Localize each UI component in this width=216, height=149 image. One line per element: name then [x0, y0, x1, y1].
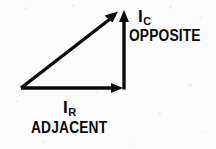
vector-diagram-figure: IC OPPOSITE IR ADJACENT [0, 0, 216, 149]
capacitive-current-label: IC [138, 8, 151, 25]
opposite-side-label: OPPOSITE [129, 28, 201, 44]
resistive-current-subscript: R [68, 106, 76, 118]
capacitive-current-vector [119, 10, 129, 90]
vertical-arrowhead [119, 10, 129, 22]
capacitive-current-subscript: C [143, 15, 151, 27]
resistive-current-vector [21, 83, 123, 93]
total-current-vector [21, 12, 118, 89]
adjacent-side-label: ADJACENT [31, 120, 107, 136]
resistive-current-label: IR [63, 99, 76, 116]
horizontal-arrowhead [111, 83, 123, 93]
